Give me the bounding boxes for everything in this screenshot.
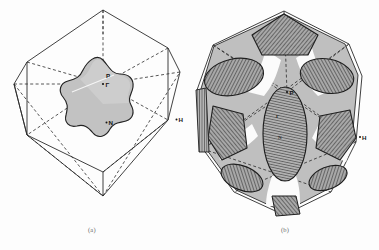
label-h-b: H <box>362 134 367 141</box>
figure-root: Γ P N H <box>0 0 379 250</box>
panel-a: Γ P N H <box>14 10 184 196</box>
p-point-marker-b <box>286 91 288 93</box>
label-p-b: P <box>290 89 294 96</box>
panel-a-fermi-surface <box>60 57 133 136</box>
panel-b-hatched-cap-top <box>252 14 318 55</box>
label-gamma-b: Γ <box>276 114 279 119</box>
n-point-marker-a <box>106 122 108 124</box>
gamma-point-marker-a <box>102 83 104 85</box>
label-p-a: P <box>106 72 110 79</box>
label-n-b: N <box>278 135 282 140</box>
h-point-marker-b <box>359 136 361 138</box>
h-point-marker-a <box>176 119 178 121</box>
panel-b-central-lens <box>263 87 307 181</box>
figure-svg: Γ P N H <box>0 0 379 250</box>
panel-b-hatched-cap-bottom <box>272 196 300 216</box>
label-h-a: H <box>179 116 184 123</box>
panel-b: P Γ N H <box>196 11 367 216</box>
panel-b-caption: (b) <box>281 226 289 233</box>
label-gamma-a: Γ <box>106 81 110 88</box>
label-n-a: N <box>109 119 114 126</box>
panel-a-caption: (a) <box>88 226 96 233</box>
